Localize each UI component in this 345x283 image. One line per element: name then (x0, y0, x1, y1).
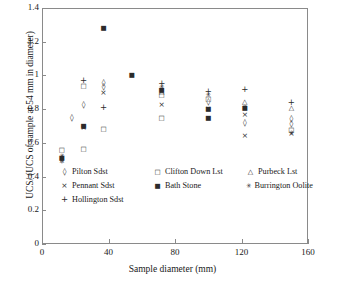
plus-marker-icon (60, 195, 69, 204)
legend-item-burrington-oolite: Burrington Oolite (246, 181, 306, 190)
data-point (80, 83, 86, 90)
legend-item-pilton-sdst: Pilton Sdst (60, 167, 153, 176)
y-tick-label: 0.6 (0, 138, 39, 147)
x-tick-label: 80 (155, 248, 195, 257)
data-point (242, 132, 248, 140)
data-point (100, 126, 106, 133)
legend-label: Hollington Sdst (72, 195, 124, 204)
x-tick-label: 120 (222, 248, 262, 257)
data-point (159, 84, 164, 91)
cross-marker-icon (60, 181, 69, 190)
data-point (100, 103, 107, 112)
scatter-chart-figure: UCS/ (UCS of sample at 54 mm in diameter… (0, 0, 345, 283)
y-tick-label: 0.4 (0, 172, 39, 181)
legend-item-purbeck-lst: Purbeck Lst (246, 167, 306, 176)
data-point (81, 123, 86, 130)
x-tick-mark (175, 239, 176, 244)
y-tick-label: 0.8 (0, 104, 39, 113)
y-tick-mark (42, 143, 46, 144)
x-axis-title: Sample diameter (mm) (0, 264, 345, 274)
y-tick-label: 0.2 (0, 205, 39, 214)
data-point (242, 111, 248, 119)
legend-item-pennant-sdst: Pennant Sdst (60, 181, 153, 190)
x-tick-label: 40 (89, 248, 129, 257)
data-point (206, 91, 211, 98)
legend-label: Pennant Sdst (72, 181, 115, 190)
data-point (205, 115, 211, 122)
data-point (129, 72, 135, 79)
legend-row: Hollington Sdst (60, 195, 306, 204)
chart-legend: Pilton Sdst Clifton Down Lst Purbeck Lst… (60, 167, 306, 209)
y-tick-mark (42, 42, 46, 43)
y-tick-label: 1.2 (0, 37, 39, 46)
square-marker-icon (153, 167, 162, 176)
x-tick-mark (242, 239, 243, 244)
y-tick-mark (42, 75, 46, 76)
data-point (205, 106, 211, 113)
y-tick-label: 1.4 (0, 3, 39, 12)
legend-label: Purbeck Lst (258, 167, 297, 176)
legend-label: Clifton Down Lst (165, 167, 223, 176)
data-point (243, 119, 247, 127)
x-tick-mark (308, 239, 309, 244)
data-point (289, 105, 294, 112)
data-point (82, 101, 86, 109)
x-tick-label: 160 (288, 248, 328, 257)
filled-square-marker-icon (153, 181, 162, 190)
data-point (80, 145, 86, 152)
star-marker-icon (246, 181, 251, 190)
x-tick-label: 0 (22, 248, 62, 257)
x-tick-mark (109, 239, 110, 244)
y-tick-mark (42, 244, 46, 245)
legend-label: Burrington Oolite (254, 181, 312, 190)
y-tick-mark (42, 177, 46, 178)
y-tick-mark (42, 109, 46, 110)
legend-item-bath-stone: Bath Stone (153, 181, 246, 190)
data-point (242, 104, 247, 111)
data-point (241, 84, 248, 93)
data-point (100, 89, 106, 97)
diamond-marker-icon (60, 167, 69, 176)
x-tick-mark (42, 239, 43, 244)
legend-label: Pilton Sdst (72, 167, 108, 176)
data-point (59, 152, 64, 159)
data-point (159, 115, 165, 122)
y-tick-label: 1 (0, 70, 39, 79)
data-point (70, 114, 74, 122)
y-tick-label: 0 (0, 239, 39, 248)
legend-label: Bath Stone (165, 181, 201, 190)
y-tick-mark (42, 8, 46, 9)
y-tick-mark (42, 210, 46, 211)
legend-row: Pennant Sdst Bath Stone Burrington Oolit… (60, 181, 306, 190)
legend-row: Pilton Sdst Clifton Down Lst Purbeck Lst (60, 167, 306, 176)
legend-item-hollington-sdst: Hollington Sdst (60, 195, 153, 204)
data-point (159, 101, 165, 109)
data-point (289, 129, 294, 136)
legend-item-clifton-down-lst: Clifton Down Lst (153, 167, 246, 176)
triangle-marker-icon (246, 167, 255, 176)
data-point (100, 25, 106, 32)
